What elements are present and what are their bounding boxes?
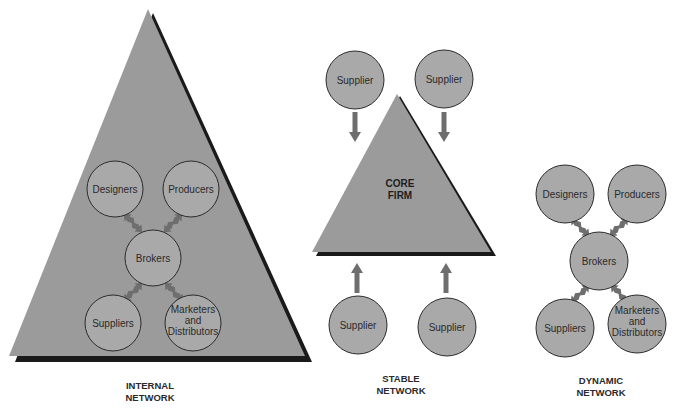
internal-network-title: INTERNAL	[126, 380, 174, 391]
node-label: Supplier	[429, 322, 466, 333]
supplier-to-core-arrow	[440, 263, 452, 293]
stable-network: CORE FIRM Supplier Supplier Supplier Sup…	[312, 50, 496, 396]
supplier-to-core-arrow	[349, 112, 361, 142]
node-label: Designers	[542, 189, 587, 200]
internal-network: Designers Producers Brokers Suppliers Ma…	[9, 9, 312, 403]
node-label: Brokers	[136, 253, 170, 264]
internal-firm-triangle	[9, 9, 305, 356]
supplier-bottom-left: Supplier	[329, 296, 387, 354]
node-label: Suppliers	[92, 318, 134, 329]
node-label: and	[629, 316, 646, 327]
node-designers: Designers	[536, 165, 594, 223]
supplier-top-left: Supplier	[326, 51, 384, 109]
node-brokers: Brokers	[125, 230, 181, 286]
node-label: Producers	[168, 184, 214, 195]
core-firm-label: CORE	[386, 178, 415, 189]
core-firm-label: FIRM	[388, 190, 412, 201]
stable-network-title: NETWORK	[376, 385, 425, 396]
node-producers: Producers	[608, 165, 666, 223]
dynamic-network-title: DYNAMIC	[579, 375, 623, 386]
node-label: Brokers	[582, 256, 616, 267]
supplier-top-right: Supplier	[415, 50, 473, 108]
dynamic-network: Designers Producers Brokers Suppliers Ma…	[536, 165, 666, 398]
node-label: Designers	[92, 184, 137, 195]
node-producers: Producers	[163, 161, 219, 217]
node-brokers: Brokers	[570, 232, 628, 290]
supplier-to-core-arrow	[438, 112, 450, 142]
internal-network-title: NETWORK	[125, 392, 174, 403]
node-label: and	[185, 315, 202, 326]
node-label: Suppliers	[544, 323, 586, 334]
node-suppliers: Suppliers	[85, 295, 141, 351]
node-label: Producers	[614, 189, 660, 200]
dynamic-network-title: NETWORK	[576, 387, 625, 398]
node-label: Distributors	[168, 326, 219, 337]
node-label: Supplier	[340, 320, 377, 331]
supplier-to-core-arrow	[351, 263, 363, 293]
node-label: Marketers	[615, 305, 659, 316]
node-suppliers: Suppliers	[536, 299, 594, 357]
node-label: Distributors	[612, 327, 663, 338]
core-firm-triangle	[312, 94, 491, 252]
node-label: Supplier	[337, 75, 374, 86]
node-label: Marketers	[171, 304, 215, 315]
node-label: Supplier	[426, 74, 463, 85]
network-structures-diagram: Designers Producers Brokers Suppliers Ma…	[0, 0, 677, 410]
supplier-bottom-right: Supplier	[418, 298, 476, 356]
stable-network-title: STABLE	[382, 373, 419, 384]
node-designers: Designers	[87, 161, 143, 217]
node-marketers-distributors: Marketers and Distributors	[608, 295, 666, 353]
node-marketers-distributors: Marketers and Distributors	[165, 295, 221, 351]
